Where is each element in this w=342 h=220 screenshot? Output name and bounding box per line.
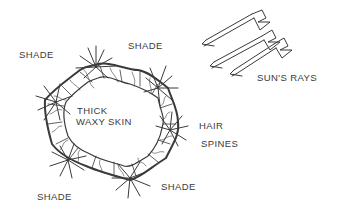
shade-label-top-left: SHADE bbox=[19, 49, 54, 61]
spine-cluster-bottom bbox=[112, 162, 150, 198]
sun-ray-arrow-1 bbox=[202, 10, 270, 46]
shade-label-bottom-left: SHADE bbox=[37, 191, 72, 203]
sun-ray-arrow-3 bbox=[230, 38, 292, 76]
shade-label-bottom-right: SHADE bbox=[161, 181, 196, 193]
hair-spines-label-line2: SPINES bbox=[201, 138, 238, 150]
cactus-diagram: SHADE SHADE THICK WAXY SKIN HAIR SPINES … bbox=[0, 0, 342, 220]
suns-rays-label: SUN'S RAYS bbox=[257, 72, 317, 84]
shade-label-top-right: SHADE bbox=[128, 40, 163, 52]
hair-spines-label-line1: HAIR bbox=[199, 120, 223, 132]
thick-waxy-skin-label-line2: WAXY SKIN bbox=[76, 116, 132, 128]
